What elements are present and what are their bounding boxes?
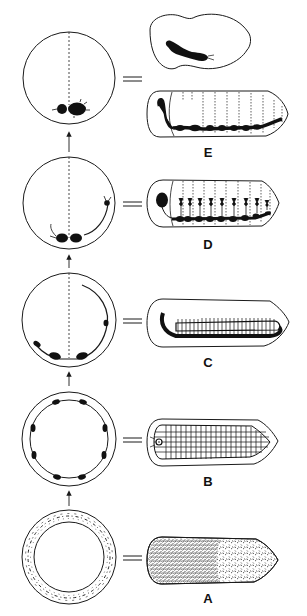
stage-label-c: C — [203, 355, 213, 370]
stage-e-egg-side-view — [147, 91, 288, 137]
stage-c: C — [22, 273, 289, 370]
stage-b-cross-section — [22, 392, 116, 486]
stage-c-cross-section — [22, 273, 116, 367]
stage-e: E — [23, 14, 288, 160]
stage-b-embryo — [147, 419, 278, 466]
equals-sign-a — [123, 556, 142, 560]
stage-label-a: A — [203, 591, 213, 606]
stage-label-e: E — [204, 145, 213, 160]
stage-a-cross-section — [22, 510, 116, 604]
equals-sign-d — [123, 202, 142, 206]
stage-b: B — [22, 392, 278, 489]
equals-sign-e — [123, 77, 142, 81]
stage-d: D — [23, 157, 279, 252]
stage-e-cross-section — [23, 32, 115, 124]
stage-d-cross-section — [23, 157, 115, 249]
stage-e-egg-top-view — [150, 14, 251, 69]
equals-sign-c — [123, 319, 142, 323]
stage-a-egg — [147, 537, 278, 584]
stage-d-embryo — [147, 180, 279, 227]
stage-a: A — [22, 510, 278, 606]
stage-label-b: B — [203, 474, 212, 489]
stage-label-d: D — [203, 237, 212, 252]
embryo-development-diagram: E — [0, 0, 307, 616]
equals-sign-b — [123, 438, 142, 442]
stage-c-embryo — [147, 299, 289, 347]
